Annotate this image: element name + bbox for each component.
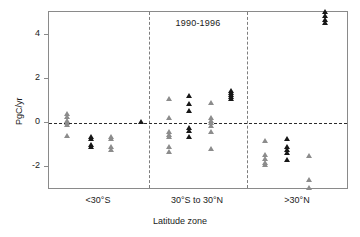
data-point-black [284,136,290,141]
y-tick-label: 4 [18,28,40,38]
data-point-gray [108,136,114,141]
data-point-gray [306,185,312,190]
zero-reference-line [49,123,347,124]
y-tick-label: -2 [18,160,40,170]
x-tick-label: <30°S [48,195,148,205]
data-point-black [88,144,94,149]
data-point-black [186,134,192,139]
x-tick-label: >30°N [247,195,347,205]
y-tick-label: 0 [18,116,40,126]
data-point-gray [64,133,70,138]
data-point-black [186,101,192,106]
data-point-black [186,93,192,98]
data-point-gray [208,146,214,151]
data-point-black [138,119,144,124]
plot-panel: 1990-1996 [48,11,348,189]
data-point-gray [166,115,172,120]
data-point-gray [208,123,214,128]
data-point-gray [166,96,172,101]
data-point-gray [64,122,70,127]
chart-figure: PgC/yr -2024 1990-1996 <30°S30°S to 30°N… [0,0,360,237]
data-point-gray [208,129,214,134]
x-axis-label: Latitude zone [0,216,360,226]
data-point-black [284,150,290,155]
data-point-gray [306,177,312,182]
data-point-gray [166,149,172,154]
data-point-gray [262,138,268,143]
zone-separator [247,12,248,188]
zone-separator [149,12,150,188]
y-tick-label: 2 [18,72,40,82]
data-point-gray [208,100,214,105]
data-point-gray [262,162,268,167]
data-point-black [284,157,290,162]
x-tick-label: 30°S to 30°N [147,195,247,205]
data-point-black [186,108,192,113]
data-point-black [322,20,328,25]
data-point-gray [306,153,312,158]
data-point-black [228,96,234,101]
data-point-black [186,128,192,133]
data-point-gray [166,134,172,139]
data-point-black [88,136,94,141]
data-point-gray [108,147,114,152]
plot-title: 1990-1996 [49,18,347,28]
